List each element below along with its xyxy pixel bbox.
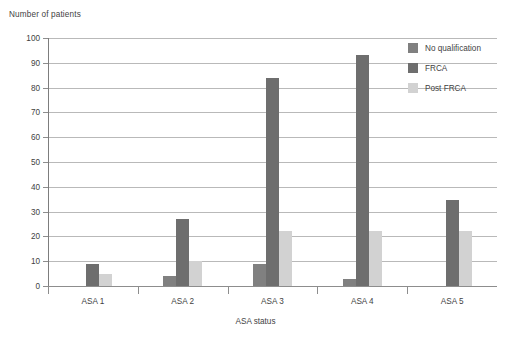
legend-swatch-icon <box>408 43 418 53</box>
y-tick-label: 0 <box>35 282 40 291</box>
y-tick-label: 100 <box>26 34 40 43</box>
legend-item[interactable]: Post FRCA <box>408 78 508 98</box>
bar <box>459 231 472 286</box>
x-axis-title: ASA status <box>0 317 511 326</box>
x-tick-mark <box>228 286 229 294</box>
x-tick-mark <box>317 286 318 294</box>
x-tick-mark <box>138 286 139 294</box>
y-tick-label: 90 <box>31 58 40 67</box>
bar-chart: Number of patients 010203040506070809010… <box>0 0 511 346</box>
x-tick-label: ASA 1 <box>82 297 105 306</box>
legend-label: No qualification <box>425 44 481 53</box>
legend-item[interactable]: No qualification <box>408 38 508 58</box>
legend-label: FRCA <box>425 64 447 73</box>
bar <box>446 200 459 286</box>
y-axis-title: Number of patients <box>9 10 81 19</box>
y-tick-label: 70 <box>31 108 40 117</box>
y-tick-label: 60 <box>31 133 40 142</box>
legend: No qualificationFRCAPost FRCA <box>408 38 508 98</box>
y-tick-label: 80 <box>31 83 40 92</box>
x-tick-label: ASA 4 <box>351 297 374 306</box>
legend-label: Post FRCA <box>425 84 466 93</box>
legend-swatch-icon <box>408 63 418 73</box>
y-tick-label: 30 <box>31 207 40 216</box>
x-tick-mark <box>48 286 49 294</box>
x-tick-mark <box>407 286 408 294</box>
y-tick-label: 50 <box>31 158 40 167</box>
gridline <box>48 286 497 287</box>
y-tick-label: 10 <box>31 257 40 266</box>
x-tick-label: ASA 3 <box>261 297 284 306</box>
y-tick-label: 20 <box>31 232 40 241</box>
legend-swatch-icon <box>408 83 418 93</box>
y-tick-label: 40 <box>31 182 40 191</box>
legend-item[interactable]: FRCA <box>408 58 508 78</box>
x-tick-label: ASA 5 <box>441 297 464 306</box>
x-tick-label: ASA 2 <box>171 297 194 306</box>
